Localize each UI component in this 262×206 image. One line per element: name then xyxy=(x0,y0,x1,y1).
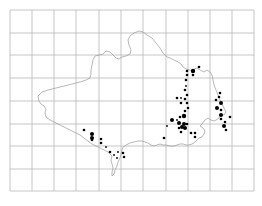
region-outline xyxy=(38,31,226,176)
occurrence-dot xyxy=(192,74,195,77)
occurrence-dot xyxy=(180,102,183,105)
occurrence-dot xyxy=(215,106,219,110)
occurrence-dot xyxy=(222,124,226,128)
occurrence-dot xyxy=(220,109,223,112)
occurrence-dot xyxy=(184,98,187,101)
coastline-path xyxy=(38,31,226,147)
occurrence-dot xyxy=(113,154,115,156)
occurrence-dot xyxy=(220,118,223,121)
occurrence-dot xyxy=(123,156,126,159)
occurrence-dot xyxy=(90,132,94,136)
occurrence-dot xyxy=(163,137,166,140)
occurrence-dot xyxy=(100,142,103,145)
occurrence-dot xyxy=(180,131,183,134)
occurrence-dot xyxy=(198,66,201,69)
occurrence-dot xyxy=(166,125,168,127)
distribution-map xyxy=(0,0,262,206)
occurrence-dot xyxy=(105,146,107,148)
occurrence-dot xyxy=(91,139,94,142)
occurrence-dot xyxy=(187,107,190,110)
occurrence-dot xyxy=(176,119,178,121)
occurrence-dot xyxy=(183,126,187,130)
occurrence-dot xyxy=(185,85,187,87)
coastline-path xyxy=(38,96,123,176)
occurrence-dot xyxy=(186,102,189,105)
occurrence-dot xyxy=(182,114,186,118)
occurrence-dot xyxy=(83,129,86,132)
occurrence-dot xyxy=(109,151,112,154)
occurrence-dot xyxy=(186,70,189,73)
occurrence-dot xyxy=(219,101,223,105)
occurrence-dot xyxy=(184,110,187,113)
occurrence-dot xyxy=(218,96,221,99)
occurrence-dot xyxy=(215,99,218,102)
occurrence-dot xyxy=(224,121,227,124)
occurrence-dot xyxy=(186,123,189,126)
occurrence-dot xyxy=(117,151,119,153)
occurrence-dot xyxy=(100,138,103,141)
map-grid xyxy=(10,10,254,191)
occurrence-dot xyxy=(180,97,182,99)
occurrence-dot xyxy=(179,116,182,119)
occurrence-dot xyxy=(178,127,181,130)
occurrence-dot xyxy=(116,157,118,159)
occurrence-dot xyxy=(219,92,222,95)
occurrence-dot xyxy=(219,113,223,117)
occurrence-dot xyxy=(122,152,125,155)
occurrence-dot xyxy=(225,129,228,132)
occurrence-dot xyxy=(186,74,189,77)
occurrence-dot xyxy=(191,69,195,73)
occurrence-dot xyxy=(185,79,188,82)
occurrence-dot xyxy=(194,136,197,139)
occurrence-dot xyxy=(170,118,174,122)
occurrence-dot xyxy=(194,132,197,135)
occurrence-dot xyxy=(177,121,181,125)
occurrence-dot xyxy=(186,94,189,97)
occurrence-dot xyxy=(229,116,232,119)
occurrence-dot xyxy=(190,132,193,135)
occurrence-dot xyxy=(184,89,187,92)
occurrence-dot xyxy=(176,97,179,100)
